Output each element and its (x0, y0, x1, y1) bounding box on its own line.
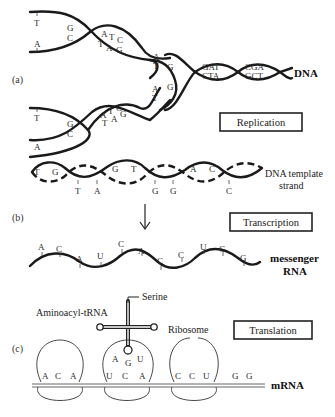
base-label: A (138, 246, 145, 256)
base-label: C (117, 35, 123, 45)
panel-c-label: (c) (12, 343, 23, 355)
central-dogma-diagram: T A G C A T C T A G A T T A G C A T C T … (0, 0, 335, 417)
base-label: A (34, 39, 41, 49)
base-label: A (190, 164, 197, 174)
base-label: G (167, 82, 174, 92)
base-label: C (157, 256, 163, 266)
base-label: G (67, 119, 74, 129)
base-label: U (137, 354, 144, 364)
base-label: G (125, 358, 132, 368)
base-label: G (67, 23, 74, 33)
base-label: U (200, 242, 207, 252)
base-label: C (118, 239, 124, 249)
base-label: T (75, 186, 81, 196)
mrna-label-line1: messenger (270, 252, 319, 264)
base-label: T (34, 167, 40, 177)
template-label-line1: DNA template (265, 168, 324, 179)
base-label: G (120, 109, 127, 119)
transcription-label: Transcription (243, 217, 300, 228)
helix-bases: G G GAT CTA CGA GCT (167, 62, 265, 92)
base-label: A (42, 371, 49, 381)
down-arrow-icon (140, 204, 150, 229)
base-label: A (76, 254, 83, 264)
base-label: G (232, 371, 239, 381)
base-label: G (170, 186, 177, 196)
mrna-label-line2: RNA (283, 265, 307, 277)
base-label: T (98, 39, 104, 49)
replication-label: Replication (237, 117, 286, 128)
base-label: T (34, 113, 40, 123)
base-label: C (55, 371, 61, 381)
mrna-label: mRNA (271, 379, 304, 391)
serine-label: Serine (142, 291, 168, 302)
base-label: T (102, 118, 108, 128)
panel-a-label: (a) (12, 74, 23, 86)
base-label: G (240, 253, 247, 263)
dna-label: DNA (294, 67, 318, 79)
base-label: A (139, 371, 146, 381)
upper-fork-bases: T A G C A T C T A G A T (34, 12, 160, 71)
base-label: G (167, 62, 174, 72)
base-label: A (70, 371, 77, 381)
base-label: G (219, 244, 226, 254)
base-label: U (203, 371, 210, 381)
base-label: C (122, 371, 128, 381)
base-label: A (38, 242, 45, 252)
panel-c-translation: Serine Aminoacyl-tRNA Ribosome Translati… (12, 291, 312, 401)
template-label-line2: strand (279, 180, 303, 191)
panel-a-replication: T A G C A T C T A G A T T A G C A T C T … (12, 12, 318, 157)
template-bases: T G G T A C T A G G C (34, 164, 232, 196)
base-label: G (52, 167, 59, 177)
panel-b-label: (b) (12, 212, 24, 224)
ribosome-3 (170, 338, 219, 401)
base-label: A (112, 354, 119, 364)
base-label: G (112, 164, 119, 174)
base-label: A (101, 29, 108, 39)
mrna-strand (30, 249, 260, 268)
base-label: C (189, 371, 195, 381)
trna-label: Aminoacyl-tRNA (36, 307, 108, 318)
base-label: C (175, 371, 181, 381)
base-label: U (97, 251, 104, 261)
base-label: A (106, 43, 113, 53)
base-label: T (34, 18, 40, 28)
base-label: CTA (202, 71, 220, 81)
base-label: C (67, 129, 73, 139)
base-label: T (131, 164, 137, 174)
base-label: A (94, 186, 101, 196)
base-label: G (116, 45, 123, 55)
base-label: T (153, 61, 159, 71)
ribosome-label: Ribosome (168, 324, 209, 335)
base-label: C (56, 244, 62, 254)
base-label: G (246, 371, 253, 381)
base-label: C (67, 33, 73, 43)
base-label: A (34, 142, 41, 152)
base-label: C (226, 186, 232, 196)
base-label: T (152, 93, 158, 103)
panel-b-transcription: T G G T A C T A G G C DNA template stran… (12, 160, 324, 277)
base-label: C (209, 164, 215, 174)
base-label: T (109, 32, 115, 42)
base-label: A (111, 114, 118, 124)
translation-label: Translation (249, 325, 297, 336)
helix-strand-bottom (165, 68, 292, 110)
base-label: U (106, 371, 113, 381)
base-label: GCT (245, 71, 264, 81)
base-label: G (152, 186, 159, 196)
anticodon: A G U (112, 354, 144, 368)
base-label: C (178, 250, 184, 260)
codons: A C A U C A C C U G G (42, 371, 253, 381)
